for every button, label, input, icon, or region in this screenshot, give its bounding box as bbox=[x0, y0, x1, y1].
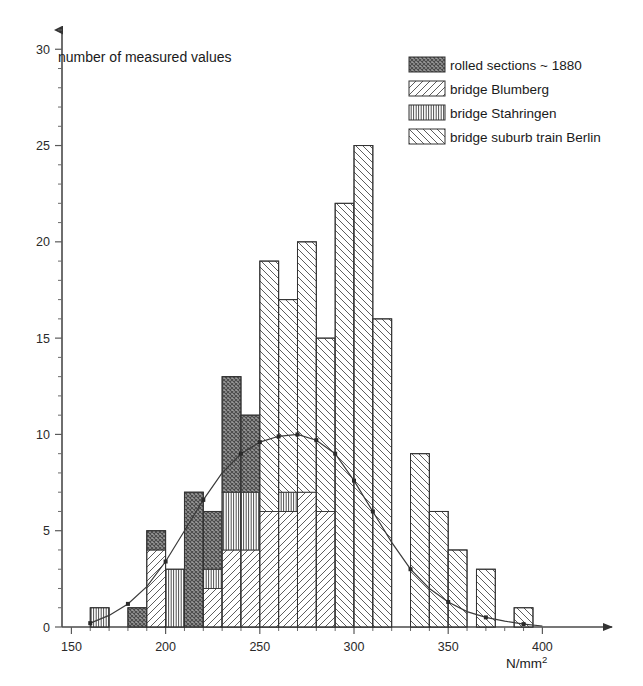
histogram-bar bbox=[128, 608, 147, 627]
x-tick-label: 250 bbox=[249, 640, 270, 654]
fit-curve-point bbox=[314, 438, 318, 442]
legend-item[interactable]: bridge Stahringen bbox=[409, 105, 557, 121]
histogram-bar bbox=[203, 511, 222, 627]
histogram-bar bbox=[373, 319, 392, 627]
bar-segment-rolled bbox=[222, 377, 241, 493]
x-tick-label: 150 bbox=[61, 640, 82, 654]
histogram-bar bbox=[411, 454, 430, 627]
bar-segment-berlin bbox=[373, 319, 392, 627]
histogram-bar bbox=[241, 415, 260, 627]
histogram-bar bbox=[354, 146, 373, 627]
legend-label: bridge Stahringen bbox=[450, 106, 557, 121]
y-axis-title: number of measured values bbox=[58, 49, 232, 65]
bar-segment-blumberg bbox=[203, 588, 222, 627]
bar-segment-rolled bbox=[128, 608, 147, 627]
bar-segment-blumberg bbox=[279, 511, 298, 627]
bar-segment-rolled bbox=[241, 415, 260, 492]
bar-segment-stahringen bbox=[203, 569, 222, 588]
bar-segment-berlin bbox=[316, 338, 335, 511]
fit-curve-point bbox=[371, 509, 375, 513]
y-tick-label: 30 bbox=[36, 43, 50, 57]
bar-segment-blumberg bbox=[260, 511, 279, 627]
fit-curve-point bbox=[522, 622, 526, 626]
bars-layer bbox=[90, 146, 533, 627]
bar-segment-berlin bbox=[335, 203, 354, 627]
fit-curve-point bbox=[484, 615, 488, 619]
legend-swatch-diagonal-back bbox=[409, 129, 445, 144]
bar-segment-stahringen bbox=[279, 492, 298, 511]
y-tick-label: 5 bbox=[43, 524, 50, 538]
legend-item[interactable]: rolled sections ~ 1880 bbox=[409, 57, 582, 73]
fit-curve-point bbox=[409, 567, 413, 571]
bar-segment-rolled bbox=[203, 511, 222, 569]
bar-segment-rolled bbox=[184, 492, 203, 627]
bar-segment-blumberg bbox=[241, 550, 260, 627]
bar-segment-stahringen bbox=[166, 569, 185, 627]
fit-curve-point bbox=[446, 600, 450, 604]
fit-curve-point bbox=[164, 560, 168, 564]
histogram-bar bbox=[297, 242, 316, 627]
y-tick-label: 10 bbox=[36, 428, 50, 442]
histogram-bar bbox=[166, 569, 185, 627]
legend-swatch-dense-stipple bbox=[409, 57, 445, 72]
bar-segment-stahringen bbox=[222, 492, 241, 550]
legend: rolled sections ~ 1880bridge Blumbergbri… bbox=[409, 57, 601, 145]
chart-canvas: 051015202530150200250300350400 number of… bbox=[0, 0, 643, 686]
histogram-bar bbox=[335, 203, 354, 627]
bar-segment-blumberg bbox=[316, 511, 335, 627]
histogram-bar bbox=[448, 550, 467, 627]
legend-label: bridge Blumberg bbox=[450, 82, 549, 97]
fit-curve-point bbox=[239, 452, 243, 456]
histogram-bar bbox=[184, 492, 203, 627]
bar-segment-stahringen bbox=[90, 608, 109, 627]
bar-segment-berlin bbox=[260, 261, 279, 511]
fit-curve-point bbox=[88, 621, 92, 625]
bar-segment-berlin bbox=[279, 300, 298, 493]
x-axis-title: N/mm2 bbox=[506, 654, 547, 671]
x-tick-label: 200 bbox=[155, 640, 176, 654]
histogram-bar bbox=[429, 511, 448, 627]
histogram-bar bbox=[279, 300, 298, 627]
legend-swatch-vertical bbox=[409, 105, 445, 120]
bar-segment-berlin bbox=[429, 511, 448, 627]
y-tick-label: 25 bbox=[36, 139, 50, 153]
y-tick-label: 0 bbox=[43, 621, 50, 635]
fit-curve-point bbox=[258, 440, 262, 444]
bar-segment-stahringen bbox=[241, 492, 260, 550]
x-tick-label: 400 bbox=[532, 640, 553, 654]
fit-curve-point bbox=[201, 498, 205, 502]
histogram-bar bbox=[90, 608, 109, 627]
bar-segment-berlin bbox=[297, 242, 316, 492]
fit-curve-point bbox=[333, 452, 337, 456]
legend-label: rolled sections ~ 1880 bbox=[450, 58, 582, 73]
histogram-chart: 051015202530150200250300350400 number of… bbox=[0, 0, 643, 686]
histogram-bar bbox=[316, 338, 335, 627]
legend-item[interactable]: bridge suburb train Berlin bbox=[409, 129, 601, 145]
fit-curve-point bbox=[277, 434, 281, 438]
bar-segment-blumberg bbox=[297, 492, 316, 627]
legend-swatch-diagonal-forward bbox=[409, 81, 445, 96]
y-tick-label: 20 bbox=[36, 235, 50, 249]
fit-curve-point bbox=[295, 432, 299, 436]
legend-label: bridge suburb train Berlin bbox=[450, 130, 601, 145]
bar-segment-berlin bbox=[448, 550, 467, 627]
fit-curve-point bbox=[126, 602, 130, 606]
legend-item[interactable]: bridge Blumberg bbox=[409, 81, 549, 97]
bar-segment-blumberg bbox=[147, 550, 166, 627]
histogram-bar bbox=[260, 261, 279, 627]
histogram-bar bbox=[222, 377, 241, 627]
x-tick-label: 350 bbox=[438, 640, 459, 654]
bar-segment-berlin bbox=[354, 146, 373, 627]
bar-segment-berlin bbox=[411, 454, 430, 627]
y-tick-label: 15 bbox=[36, 332, 50, 346]
x-tick-label: 300 bbox=[344, 640, 365, 654]
bar-segment-blumberg bbox=[222, 550, 241, 627]
fit-curve-point bbox=[352, 479, 356, 483]
histogram-bar bbox=[147, 531, 166, 627]
bar-segment-rolled bbox=[147, 531, 166, 550]
